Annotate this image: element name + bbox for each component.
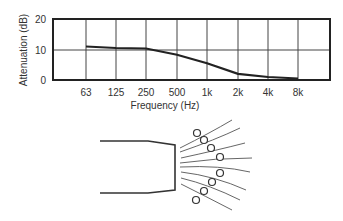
ear-illustration xyxy=(100,120,252,210)
ear-canal-outline xyxy=(100,141,175,193)
y-axis-label: Attenuation (dB) xyxy=(18,14,29,86)
x-tick: 2k xyxy=(233,87,245,98)
x-tick: 125 xyxy=(108,87,125,98)
y-tick: 20 xyxy=(35,14,47,25)
x-axis-label: Frequency (Hz) xyxy=(131,100,200,111)
x-tick: 63 xyxy=(80,87,92,98)
attenuation-line xyxy=(86,47,298,79)
x-tick: 500 xyxy=(169,87,186,98)
chart: 20 10 0 63 125 250 500 1k 2k 4k 8k Frequ… xyxy=(18,14,330,111)
x-tick: 1k xyxy=(202,87,214,98)
x-tick: 4k xyxy=(263,87,275,98)
y-tick: 10 xyxy=(35,45,47,56)
x-tick: 8k xyxy=(293,87,305,98)
y-tick: 0 xyxy=(40,75,46,86)
grid-lines xyxy=(53,19,330,80)
x-tick: 250 xyxy=(138,87,155,98)
sound-wave-lines xyxy=(180,120,252,210)
figure: 20 10 0 63 125 250 500 1k 2k 4k 8k Frequ… xyxy=(0,0,343,221)
